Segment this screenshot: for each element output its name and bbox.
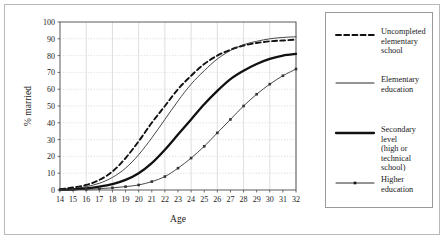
- series-marker: [203, 145, 206, 148]
- svg-text:27: 27: [226, 195, 234, 204]
- svg-text:0: 0: [51, 186, 55, 195]
- svg-text:19: 19: [122, 195, 130, 204]
- series-marker: [137, 184, 140, 187]
- svg-text:26: 26: [213, 195, 221, 204]
- legend-line-sample: [332, 76, 378, 90]
- series-marker: [216, 132, 219, 135]
- legend-item: Uncompleted elementary school: [332, 27, 432, 56]
- svg-text:28: 28: [240, 195, 248, 204]
- svg-text:100: 100: [43, 18, 55, 27]
- series-marker: [98, 187, 101, 190]
- svg-text:14: 14: [56, 195, 64, 204]
- svg-text:31: 31: [279, 195, 287, 204]
- legend-item: Higher education: [332, 175, 432, 194]
- gridlines: [60, 22, 296, 190]
- svg-text:70: 70: [47, 68, 55, 77]
- svg-text:50: 50: [47, 102, 55, 111]
- series-marker: [295, 68, 298, 71]
- series-marker: [72, 188, 75, 191]
- chart-legend: Uncompleted elementary schoolElementary …: [325, 12, 433, 208]
- svg-text:21: 21: [148, 195, 156, 204]
- series-marker: [282, 74, 285, 77]
- series-marker: [242, 105, 245, 108]
- svg-text:80: 80: [47, 52, 55, 61]
- series-marker: [268, 83, 271, 86]
- svg-text:32: 32: [292, 195, 300, 204]
- series-marker: [255, 93, 258, 96]
- series-marker: [177, 167, 180, 170]
- svg-text:16: 16: [82, 195, 90, 204]
- series-line: [60, 37, 296, 190]
- svg-text:22: 22: [161, 195, 169, 204]
- svg-text:30: 30: [47, 136, 55, 145]
- figure-container: 14151617181920212223242526272829303132 0…: [0, 0, 444, 239]
- svg-text:40: 40: [47, 119, 55, 128]
- legend-item-label: Uncompleted elementary school: [378, 27, 432, 56]
- legend-item-label: Elementary education: [378, 75, 419, 94]
- chart-plot-area: 14151617181920212223242526272829303132 0…: [0, 0, 310, 239]
- series-marker: [59, 189, 62, 192]
- x-axis-label: Age: [170, 214, 186, 224]
- legend-item: Elementary education: [332, 75, 419, 94]
- svg-text:20: 20: [135, 195, 143, 204]
- svg-text:25: 25: [200, 195, 208, 204]
- y-axis-label: % married: [23, 86, 33, 126]
- legend-line-sample: [332, 28, 378, 42]
- svg-text:24: 24: [187, 195, 195, 204]
- svg-text:29: 29: [253, 195, 261, 204]
- svg-text:15: 15: [69, 195, 77, 204]
- legend-item-label: Secondary level (high or technical schoo…: [378, 125, 432, 173]
- legend-line-sample: [332, 126, 378, 140]
- svg-text:20: 20: [47, 152, 55, 161]
- series-marker: [190, 157, 193, 160]
- series-marker: [164, 175, 167, 178]
- legend-line-sample: [332, 176, 378, 190]
- svg-text:23: 23: [174, 195, 182, 204]
- svg-text:18: 18: [108, 195, 116, 204]
- svg-text:17: 17: [95, 195, 103, 204]
- svg-text:90: 90: [47, 35, 55, 44]
- series-marker: [229, 118, 232, 121]
- data-series-lines: [59, 37, 298, 191]
- svg-text:60: 60: [47, 85, 55, 94]
- x-axis-tick-labels: 14151617181920212223242526272829303132: [56, 195, 300, 204]
- legend-item: Secondary level (high or technical schoo…: [332, 125, 432, 173]
- legend-item-label: Higher education: [378, 175, 432, 194]
- svg-text:10: 10: [47, 169, 55, 178]
- series-marker: [124, 185, 127, 188]
- series-marker: [111, 187, 114, 190]
- svg-text:30: 30: [266, 195, 274, 204]
- series-marker: [85, 188, 88, 191]
- series-line: [60, 69, 296, 190]
- y-axis-tick-labels: 0102030405060708090100: [43, 18, 55, 195]
- series-marker: [150, 180, 153, 183]
- line-chart: 14151617181920212223242526272829303132 0…: [0, 0, 310, 239]
